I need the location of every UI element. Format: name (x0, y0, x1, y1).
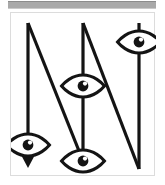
eye-glint-right (139, 38, 143, 42)
diagram-canvas (10, 12, 155, 176)
horizontal-scrollbar-track[interactable] (0, 0, 165, 9)
eye-icon-right[interactable] (118, 31, 157, 53)
eye-glint-left (28, 141, 32, 145)
screenshot-root (0, 0, 165, 185)
eye-pupil-right (134, 37, 145, 48)
eye-glint-middle-upper (83, 82, 87, 86)
horizontal-scrollbar-thumb[interactable] (8, 1, 156, 9)
eye-pupil-middle-upper (78, 81, 89, 92)
eye-glint-middle-lower (83, 157, 87, 161)
eye-pupil-middle-lower (78, 156, 89, 167)
zigzag-path-diagram (11, 13, 156, 177)
eye-pupil-left (23, 140, 34, 151)
eye-icon-middle-upper[interactable] (62, 75, 105, 97)
eye-icon-left[interactable] (11, 134, 50, 156)
eye-icon-middle-lower[interactable] (62, 150, 105, 172)
